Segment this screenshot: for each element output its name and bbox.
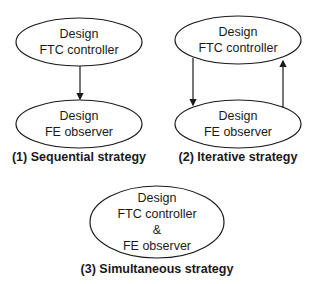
node-line: FE observer bbox=[95, 238, 219, 254]
node-line: FTC controller bbox=[176, 40, 300, 56]
node-line: FTC controller bbox=[95, 206, 219, 222]
node-line: Design bbox=[176, 24, 300, 40]
iterative-top-node: Design FTC controller bbox=[176, 24, 300, 56]
iterative-bottom-node: Design FE observer bbox=[176, 108, 300, 140]
node-line: Design bbox=[17, 108, 141, 124]
node-line: FE observer bbox=[176, 124, 300, 140]
simultaneous-caption: (3) Simultaneous strategy bbox=[72, 262, 242, 276]
node-line: Design bbox=[95, 190, 219, 206]
simultaneous-node: Design FTC controller & FE observer bbox=[95, 190, 219, 254]
sequential-caption: (1) Sequential strategy bbox=[4, 150, 154, 164]
node-line: & bbox=[95, 222, 219, 238]
sequential-bottom-node: Design FE observer bbox=[17, 108, 141, 140]
sequential-top-node: Design FTC controller bbox=[17, 26, 141, 58]
node-line: FTC controller bbox=[17, 42, 141, 58]
node-line: FE observer bbox=[17, 124, 141, 140]
node-line: Design bbox=[17, 26, 141, 42]
node-line: Design bbox=[176, 108, 300, 124]
iterative-caption: (2) Iterative strategy bbox=[168, 150, 308, 164]
